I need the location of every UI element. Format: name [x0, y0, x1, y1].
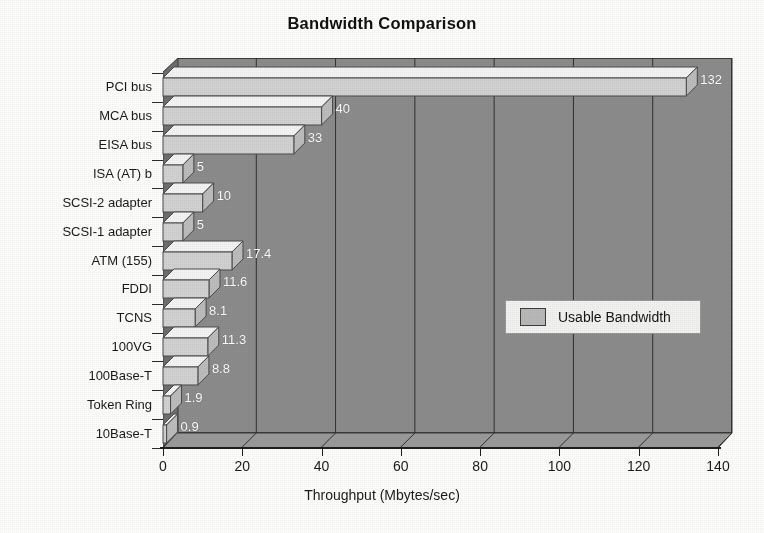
- bar-tcns: [163, 309, 195, 327]
- x-axis-tick-label: 120: [627, 458, 650, 474]
- x-axis-tick: [480, 447, 481, 456]
- category-tick: [152, 131, 163, 132]
- category-tick: [152, 73, 163, 74]
- category-label: 10Base-T: [0, 426, 152, 441]
- bar-mca-bus: [163, 107, 322, 125]
- bar-value-label: 8.1: [209, 303, 227, 318]
- legend-swatch-usable-bandwidth: [520, 308, 546, 326]
- category-label: 100Base-T: [0, 368, 152, 383]
- x-axis-tick-label: 0: [159, 458, 167, 474]
- category-tick: [152, 102, 163, 103]
- legend-label-usable-bandwidth: Usable Bandwidth: [558, 309, 671, 325]
- category-tick: [152, 390, 163, 391]
- x-axis-tick: [163, 447, 164, 456]
- category-label: SCSI-2 adapter: [0, 195, 152, 210]
- x-axis-tick-label: 140: [706, 458, 729, 474]
- x-axis-tick: [242, 447, 243, 456]
- category-label: Token Ring: [0, 397, 152, 412]
- x-axis-tick-label: 60: [393, 458, 409, 474]
- x-axis-tick-label: 80: [472, 458, 488, 474]
- bar-10base-t: [163, 425, 167, 443]
- x-axis-tick: [322, 447, 323, 456]
- category-tick: [152, 419, 163, 420]
- category-tick: [152, 333, 163, 334]
- bar-pci-bus: [163, 78, 686, 96]
- bar-100vg: [163, 338, 208, 356]
- chart-container: Bandwidth Comparison 1324033510517.411.6…: [0, 0, 764, 533]
- category-label: MCA bus: [0, 108, 152, 123]
- bar-scsi-1-adapter: [163, 223, 183, 241]
- bar-scsi-2-adapter: [163, 194, 203, 212]
- bar-value-label: 11.3: [222, 332, 246, 347]
- legend: Usable Bandwidth: [505, 300, 701, 334]
- category-tick: [152, 217, 163, 218]
- category-label: SCSI-1 adapter: [0, 224, 152, 239]
- bar-eisa-bus: [163, 136, 294, 154]
- bar-value-label: 1.9: [185, 390, 203, 405]
- category-label: 100VG: [0, 339, 152, 354]
- bar-fddi: [163, 280, 209, 298]
- bar-atm-155: [163, 252, 232, 270]
- x-axis-tick-label: 100: [548, 458, 571, 474]
- bar-value-label: 40: [336, 101, 350, 116]
- bar-value-label: 11.6: [223, 274, 247, 289]
- bar-value-label: 5: [197, 159, 204, 174]
- category-label: ISA (AT) b: [0, 166, 152, 181]
- bar-value-label: 10: [217, 188, 231, 203]
- bar-100base-t: [163, 367, 198, 385]
- bar-value-label: 0.9: [181, 419, 199, 434]
- bar-token-ring: [163, 396, 171, 414]
- x-axis-title: Throughput (Mbytes/sec): [0, 487, 764, 503]
- x-axis-tick: [639, 447, 640, 456]
- bar-value-label: 33: [308, 130, 322, 145]
- bar-value-label: 8.8: [212, 361, 230, 376]
- category-tick: [152, 275, 163, 276]
- category-tick: [152, 160, 163, 161]
- bar-value-label: 132: [700, 72, 722, 87]
- bar-value-label: 5: [197, 217, 204, 232]
- category-tick: [152, 304, 163, 305]
- category-label: EISA bus: [0, 137, 152, 152]
- bar-value-label: 17.4: [246, 246, 271, 261]
- category-label: FDDI: [0, 281, 152, 296]
- category-tick: [152, 361, 163, 362]
- category-label: ATM (155): [0, 253, 152, 268]
- category-label: TCNS: [0, 310, 152, 325]
- category-tick: [152, 246, 163, 247]
- x-axis-tick: [718, 447, 719, 456]
- x-axis-tick: [559, 447, 560, 456]
- x-axis-line: [160, 447, 721, 449]
- x-axis-tick: [401, 447, 402, 456]
- x-axis-tick-label: 20: [234, 458, 250, 474]
- category-tick: [152, 188, 163, 189]
- category-label: PCI bus: [0, 79, 152, 94]
- bar-isa-at-b: [163, 165, 183, 183]
- x-axis-tick-label: 40: [314, 458, 330, 474]
